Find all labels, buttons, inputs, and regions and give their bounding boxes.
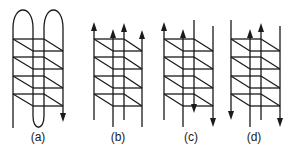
rung-diagonal <box>44 39 63 51</box>
rung-diagonal <box>44 94 63 106</box>
hairpin-loop-top-right <box>44 10 63 28</box>
rung-diagonal <box>231 57 250 69</box>
arrow-down-icon <box>277 118 283 127</box>
rung-diagonal <box>44 57 63 69</box>
rung-diagonal <box>194 39 213 51</box>
rung-diagonal <box>261 76 280 88</box>
rung-diagonal <box>124 94 142 106</box>
arrow-up-icon <box>110 29 116 38</box>
rung-diagonal <box>164 39 183 51</box>
rung-diagonal <box>124 76 142 88</box>
panel-label-c: (c) <box>184 130 198 144</box>
rung-diagonal <box>164 76 183 88</box>
rung-diagonal <box>44 76 63 88</box>
rung-diagonal <box>13 39 33 51</box>
panel-label-b: (b) <box>111 130 126 144</box>
rung-diagonal <box>261 57 280 69</box>
hairpin-loop-top-left <box>13 10 33 28</box>
rung-diagonal <box>164 57 183 69</box>
rung-diagonal <box>231 76 250 88</box>
rung-diagonal <box>94 94 113 106</box>
rung-diagonal <box>194 57 213 69</box>
arrow-down-icon <box>228 111 234 120</box>
panel-label-d: (d) <box>247 130 262 144</box>
rung-diagonal <box>124 57 142 69</box>
rung-diagonal <box>194 76 213 88</box>
rung-diagonal <box>124 39 142 51</box>
rung-diagonal <box>13 76 33 88</box>
arrow-up-icon <box>121 23 127 32</box>
arrow-up-icon <box>258 23 264 32</box>
rung-diagonal <box>164 94 183 106</box>
hairpin-loop-bottom <box>33 116 44 127</box>
arrow-down-icon <box>60 113 66 122</box>
rung-diagonal <box>231 94 250 106</box>
rung-diagonal <box>94 39 113 51</box>
rung-diagonal <box>94 57 113 69</box>
rung-diagonal <box>231 39 250 51</box>
arrow-up-icon <box>161 22 167 31</box>
arrow-up-icon <box>247 29 253 38</box>
arrow-up-icon <box>180 29 186 38</box>
rung-diagonal <box>261 39 280 51</box>
rung-diagonal <box>13 57 33 69</box>
rung-diagonal <box>13 94 33 106</box>
arrow-up-icon <box>139 30 145 39</box>
rung-diagonal <box>261 94 280 106</box>
rung-diagonal <box>94 76 113 88</box>
panel-label-a: (a) <box>31 130 46 144</box>
arrow-down-icon <box>210 118 216 127</box>
arrow-up-icon <box>91 22 97 31</box>
